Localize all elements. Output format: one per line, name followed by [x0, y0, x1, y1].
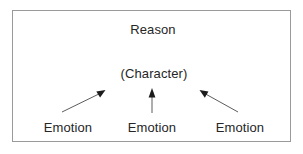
node-label-emotion-left: Emotion — [44, 120, 92, 135]
diagram-canvas: Reason (Character) Emotion Emotion Emoti… — [0, 0, 303, 154]
node-label-character: (Character) — [121, 66, 188, 81]
node-label-emotion-center: Emotion — [128, 120, 176, 135]
node-label-emotion-right: Emotion — [216, 120, 264, 135]
node-label-reason: Reason — [130, 22, 175, 37]
